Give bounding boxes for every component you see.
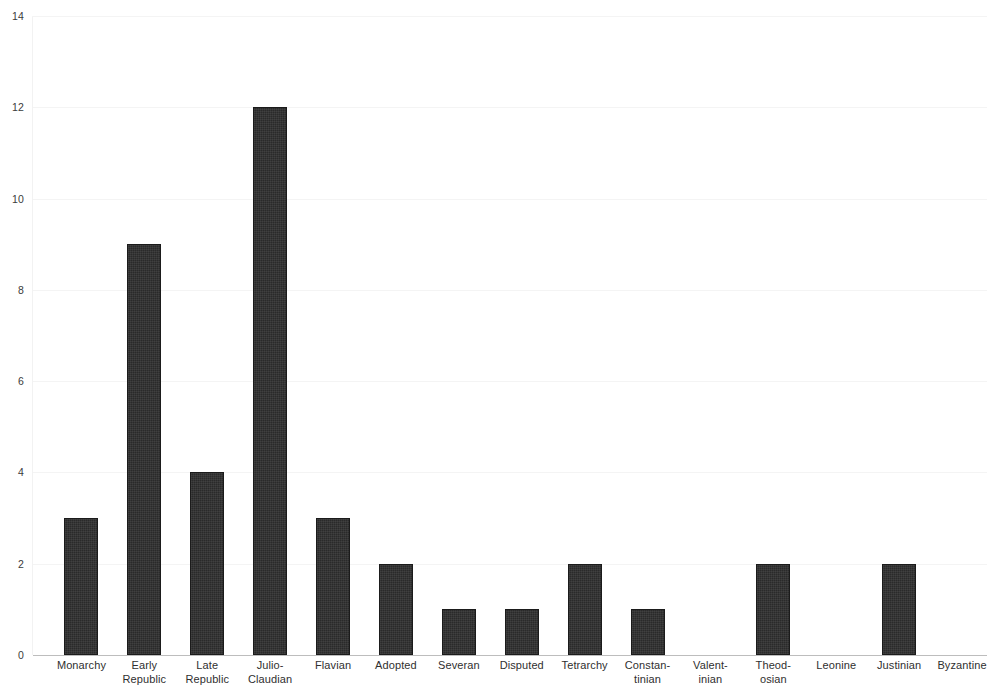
x-tick-label: Tetrarchy — [553, 659, 616, 673]
bar[interactable] — [568, 564, 602, 655]
y-tick-label: 12 — [0, 102, 24, 113]
y-tick-label: 14 — [0, 11, 24, 22]
bar[interactable] — [442, 609, 476, 655]
bar[interactable] — [882, 564, 916, 655]
bar[interactable] — [379, 564, 413, 655]
x-tick-label: Adopted — [365, 659, 428, 673]
x-tick-label: Leonine — [805, 659, 868, 673]
x-tick-label: Justinian — [868, 659, 931, 673]
y-tick-label: 6 — [0, 376, 24, 387]
y-tick-label: 0 — [0, 650, 24, 661]
bar[interactable] — [64, 518, 98, 655]
x-tick-label: Constan- tinian — [616, 659, 679, 686]
x-tick-label: Julio- Claudian — [239, 659, 302, 686]
x-axis-tick-labels: MonarchyEarly RepublicLate RepublicJulio… — [32, 659, 987, 693]
bar[interactable] — [190, 472, 224, 655]
y-tick-label: 8 — [0, 285, 24, 296]
bar[interactable] — [127, 244, 161, 655]
x-tick-label: Monarchy — [50, 659, 113, 673]
y-tick-label: 4 — [0, 467, 24, 478]
bar[interactable] — [316, 518, 350, 655]
y-tick-label: 10 — [0, 193, 24, 204]
x-tick-label: Flavian — [302, 659, 365, 673]
x-tick-label: Early Republic — [113, 659, 176, 686]
bar[interactable] — [505, 609, 539, 655]
bar[interactable] — [631, 609, 665, 655]
x-tick-label: Late Republic — [176, 659, 239, 686]
x-tick-label: Severan — [427, 659, 490, 673]
y-tick-label: 2 — [0, 558, 24, 569]
bars-layer — [32, 16, 987, 655]
x-tick-label: Disputed — [490, 659, 553, 673]
x-tick-label: Valent- inian — [679, 659, 742, 686]
bar-chart: 02468101214 MonarchyEarly RepublicLate R… — [0, 0, 993, 693]
bar[interactable] — [253, 107, 287, 655]
gridline-0 — [33, 655, 987, 656]
x-tick-label: Byzantine — [931, 659, 993, 673]
bar[interactable] — [756, 564, 790, 655]
x-tick-label: Theod- osian — [742, 659, 805, 686]
